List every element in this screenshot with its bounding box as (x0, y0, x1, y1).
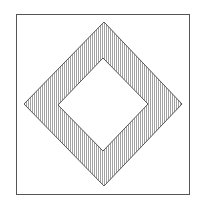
diamond-frame-diagram (0, 0, 199, 211)
